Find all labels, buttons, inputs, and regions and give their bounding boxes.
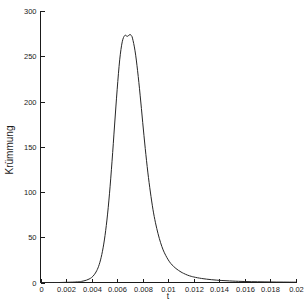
x-tick-label: 0.02 <box>289 285 304 294</box>
curve-kruemmung <box>41 35 297 283</box>
axis-ticks <box>41 12 297 284</box>
x-tick-label: 0.016 <box>236 285 255 294</box>
axis-lines <box>41 11 297 283</box>
y-tick-label: 250 <box>24 52 37 61</box>
x-tick-label: 0.002 <box>57 285 76 294</box>
x-tick-label: 0.004 <box>83 285 102 294</box>
y-tick-label: 150 <box>24 143 37 152</box>
y-tick-labels: 050100150200250300 <box>24 7 37 288</box>
x-tick-label: 0.008 <box>134 285 153 294</box>
x-tick-label: 0.014 <box>210 285 229 294</box>
x-tick-label: 0.018 <box>261 285 280 294</box>
y-tick-label: 50 <box>28 233 36 242</box>
y-tick-label: 300 <box>24 7 37 16</box>
x-tick-label: 0 <box>39 285 43 294</box>
krummung-line-chart: 00.0020.0040.0060.0080.010.0120.0140.016… <box>0 0 306 302</box>
x-tick-label: 0.012 <box>185 285 204 294</box>
x-tick-labels: 00.0020.0040.0060.0080.010.0120.0140.016… <box>39 285 303 294</box>
y-tick-label: 100 <box>24 188 37 197</box>
y-axis-title: Krümmung <box>4 126 15 175</box>
y-tick-label: 0 <box>32 279 36 288</box>
x-tick-label: 0.006 <box>108 285 127 294</box>
chart-figure: 00.0020.0040.0060.0080.010.0120.0140.016… <box>0 0 306 302</box>
y-tick-label: 200 <box>24 98 37 107</box>
